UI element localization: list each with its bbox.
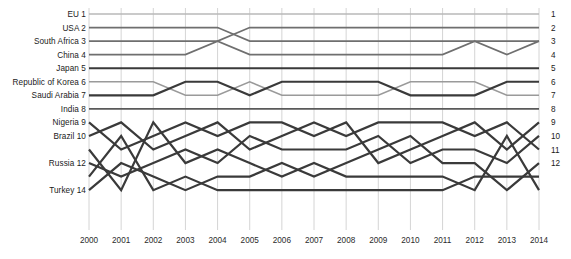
x-axis-tick-label: 2004 xyxy=(208,236,226,245)
left-rank-label: Turkey 14 xyxy=(49,186,86,195)
left-rank-label: South Africa 3 xyxy=(34,37,86,46)
x-axis-tick-label: 2010 xyxy=(401,236,419,245)
left-rank-label: USA 2 xyxy=(62,23,86,32)
x-axis-tick-label: 2005 xyxy=(241,236,259,245)
x-axis-tick-label: 2007 xyxy=(305,236,323,245)
right-rank-label: 1 xyxy=(551,10,556,19)
bump-chart: EU 1USA 2South Africa 3China 4Japan 5Rep… xyxy=(0,0,571,259)
left-rank-label: Republic of Korea 6 xyxy=(13,77,86,86)
right-rank-labels: 123456789101112 xyxy=(551,0,571,200)
x-axis-tick-label: 2006 xyxy=(273,236,291,245)
right-rank-label: 9 xyxy=(551,118,556,127)
left-rank-label: Saudi Arabia 7 xyxy=(32,91,86,100)
x-axis-tick-label: 2008 xyxy=(337,236,355,245)
right-rank-label: 4 xyxy=(551,50,556,59)
left-rank-labels: EU 1USA 2South Africa 3China 4Japan 5Rep… xyxy=(0,0,86,200)
left-rank-label: Brazil 10 xyxy=(53,131,86,140)
rank-lines-svg xyxy=(89,8,539,230)
right-rank-label: 10 xyxy=(551,131,560,140)
right-rank-label: 8 xyxy=(551,104,556,113)
right-rank-label: 6 xyxy=(551,77,556,86)
x-axis-labels: 2000200120022003200420052006200720082009… xyxy=(0,236,571,252)
left-rank-label: China 4 xyxy=(57,50,86,59)
x-axis-tick-label: 2002 xyxy=(144,236,162,245)
x-axis-tick-label: 2001 xyxy=(112,236,130,245)
x-axis-tick-label: 2014 xyxy=(530,236,548,245)
left-rank-label: India 8 xyxy=(61,104,86,113)
left-rank-label: Japan 5 xyxy=(56,64,86,73)
right-rank-label: 12 xyxy=(551,159,560,168)
x-axis-tick-label: 2013 xyxy=(498,236,516,245)
right-rank-label: 3 xyxy=(551,37,556,46)
right-rank-label: 7 xyxy=(551,91,556,100)
x-axis-tick-label: 2003 xyxy=(176,236,194,245)
left-rank-label: Nigeria 9 xyxy=(52,118,86,127)
x-axis-tick-label: 2012 xyxy=(466,236,484,245)
right-rank-label: 5 xyxy=(551,64,556,73)
x-axis-tick-label: 2009 xyxy=(369,236,387,245)
x-axis-tick-label: 2011 xyxy=(434,236,452,245)
right-rank-label: 11 xyxy=(551,145,560,154)
plot-area xyxy=(89,8,539,230)
x-axis-tick-label: 2000 xyxy=(80,236,98,245)
left-rank-label: Russia 12 xyxy=(49,159,86,168)
right-rank-label: 2 xyxy=(551,23,556,32)
left-rank-label: EU 1 xyxy=(67,10,86,19)
